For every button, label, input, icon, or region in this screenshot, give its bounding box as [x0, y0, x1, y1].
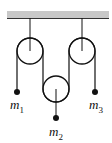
mass-m3: [92, 89, 98, 95]
ceiling: [7, 11, 109, 18]
label-m2-sub: 2: [58, 132, 63, 142]
label-m3-base: m: [89, 97, 98, 112]
label-m1-sub: 1: [19, 105, 24, 115]
label-m1-base: m: [10, 97, 19, 112]
mass-m2: [53, 115, 59, 121]
pulley-diagram: [0, 0, 112, 143]
label-m2: m2: [49, 125, 63, 142]
label-m2-base: m: [49, 124, 58, 139]
label-m3-sub: 3: [98, 105, 103, 115]
mass-m1: [14, 89, 20, 95]
label-m1: m1: [10, 98, 24, 115]
label-m3: m3: [89, 98, 103, 115]
